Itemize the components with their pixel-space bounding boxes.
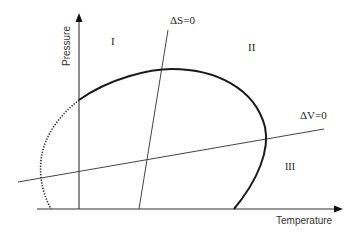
- entropy-zero-line: [139, 30, 168, 209]
- phase-boundary-solid: [79, 69, 266, 209]
- entropy-line-label: ΔS=0: [170, 14, 195, 26]
- phase-diagram: Pressure Temperature ΔS=0 ΔV=0 I II III: [0, 0, 359, 235]
- region-2-label: II: [248, 41, 256, 53]
- temperature-axis-label: Temperature: [276, 215, 333, 226]
- pressure-axis-label: Pressure: [61, 26, 72, 66]
- region-3-label: III: [285, 161, 295, 172]
- volume-zero-line: [18, 129, 324, 182]
- temperature-axis-arrow-icon: [334, 206, 343, 213]
- volume-line-label: ΔV=0: [300, 109, 327, 121]
- pressure-axis-arrow-icon: [76, 13, 83, 22]
- region-1-label: I: [111, 35, 115, 47]
- phase-boundary-dotted: [41, 100, 79, 209]
- axes: [37, 13, 343, 213]
